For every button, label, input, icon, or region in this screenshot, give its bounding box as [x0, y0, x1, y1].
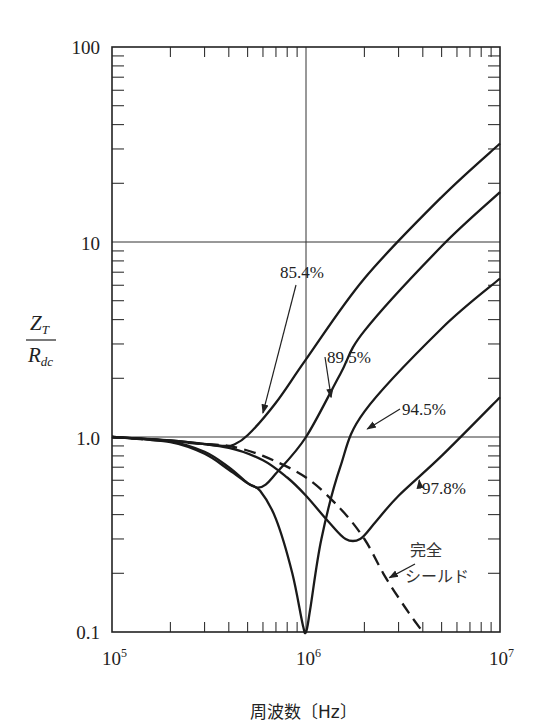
- annotation-label: 85.4%: [280, 263, 324, 282]
- y-label-denominator: Rdc: [27, 343, 53, 369]
- x-tick-base: 10: [102, 648, 121, 669]
- annotation: 94.5%: [367, 400, 446, 429]
- annotation: 完全シールド: [390, 541, 469, 586]
- y-axis-label: ZT Rdc: [26, 311, 56, 369]
- annotation: 97.8%: [419, 479, 466, 498]
- x-tick-exp: 7: [508, 646, 514, 660]
- annotation: 85.4%: [263, 263, 324, 413]
- x-tick-base: 10: [489, 648, 508, 669]
- annotation-arrow: [419, 480, 420, 488]
- annotation-label: 94.5%: [402, 400, 446, 419]
- annotation-arrow: [263, 285, 296, 413]
- y-tick-label: 10: [81, 233, 100, 254]
- annotation-label: 完全: [410, 541, 442, 560]
- series-line: [112, 437, 423, 632]
- y-label-numerator: ZT: [30, 311, 50, 337]
- y-tick-label: 0.1: [76, 622, 100, 643]
- annotation-label: シールド: [405, 567, 469, 586]
- x-tick-exp: 5: [121, 646, 127, 660]
- x-tick-base: 10: [296, 648, 315, 669]
- x-tick-label: 106: [296, 646, 321, 669]
- annotation-label: 97.8%: [422, 479, 466, 498]
- x-tick-labels: 105 106 107: [102, 646, 514, 669]
- chart: 85.4%89.5%94.5%97.8%完全シールド 100 10 1.0 0.…: [0, 0, 539, 727]
- annotations: 85.4%89.5%94.5%97.8%完全シールド: [263, 263, 469, 586]
- x-tick-label: 107: [489, 646, 514, 669]
- y-tick-label: 100: [72, 37, 101, 58]
- y-tick-label: 1.0: [76, 428, 100, 449]
- annotation-label: 89.5%: [327, 348, 371, 367]
- x-axis-label: 周波数〔Hz〕: [250, 702, 357, 722]
- x-tick-label: 105: [102, 646, 127, 669]
- annotation-arrow: [367, 409, 400, 429]
- x-tick-exp: 6: [315, 646, 321, 660]
- y-tick-labels: 100 10 1.0 0.1: [72, 37, 101, 643]
